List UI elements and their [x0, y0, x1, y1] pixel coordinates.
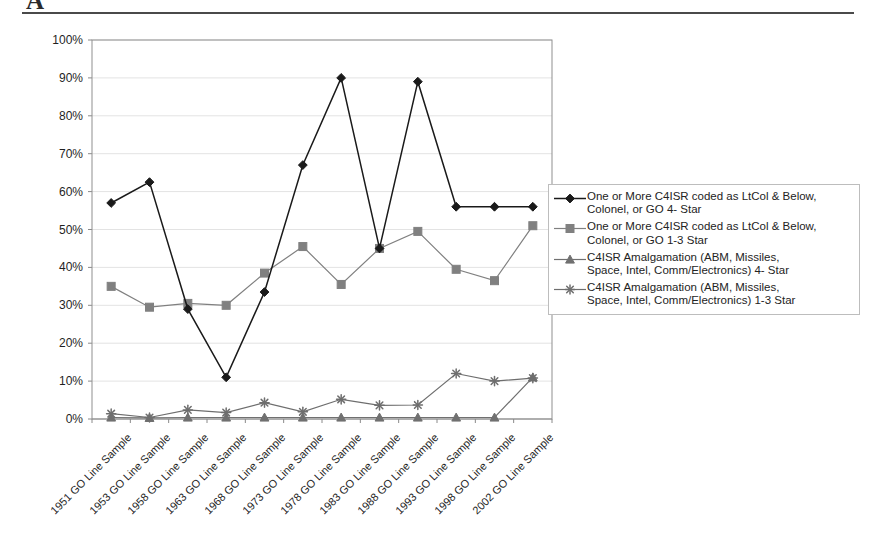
data-point-square	[222, 301, 230, 309]
data-point-diamond	[145, 178, 154, 187]
y-axis-tick-label: 40%	[59, 260, 83, 274]
chart-page: A 0%10%20%30%40%50%60%70%80%90%100% 1951…	[0, 0, 870, 552]
legend-label-3: C4ISR Amalgamation (ABM, Missiles, Space…	[587, 281, 795, 307]
legend-item-0[interactable]: One or More C4ISR coded as LtCol & Below…	[553, 190, 853, 216]
data-point-diamond	[490, 202, 499, 211]
data-point-square	[566, 225, 574, 233]
legend-label-0: One or More C4ISR coded as LtCol & Below…	[587, 190, 816, 216]
data-point-star	[452, 369, 461, 378]
data-point-square	[146, 303, 154, 311]
legend-item-3[interactable]: C4ISR Amalgamation (ABM, Missiles, Space…	[553, 281, 853, 307]
series-line	[111, 377, 533, 418]
legend-marker-square-icon	[553, 221, 587, 236]
data-point-star	[183, 405, 192, 414]
y-axis-tick-label: 50%	[59, 223, 83, 237]
legend-item-2[interactable]: C4ISR Amalgamation (ABM, Missiles, Space…	[553, 251, 853, 277]
y-axis-tick-label: 80%	[59, 109, 83, 123]
chart-container: 0%10%20%30%40%50%60%70%80%90%100% 1951 G…	[0, 24, 870, 552]
data-point-diamond	[222, 373, 231, 382]
data-point-diamond	[452, 202, 461, 211]
y-axis-tick-label: 20%	[59, 336, 83, 350]
data-point-square	[491, 277, 499, 285]
data-point-star	[107, 409, 116, 418]
data-point-square	[529, 222, 537, 230]
series-line	[111, 374, 533, 418]
data-point-diamond	[260, 288, 269, 297]
legend-marker-diamond-icon	[553, 191, 587, 206]
data-point-star	[490, 377, 499, 386]
data-point-star	[145, 413, 154, 422]
data-point-square	[337, 280, 345, 288]
legend-item-1[interactable]: One or More C4ISR coded as LtCol & Below…	[553, 220, 853, 246]
y-axis-tick-label: 70%	[59, 147, 83, 161]
y-axis-tick-label: 30%	[59, 298, 83, 312]
data-point-diamond	[107, 199, 116, 208]
legend-marker-star-icon	[553, 282, 587, 297]
y-axis-tick-label: 60%	[59, 185, 83, 199]
legend-marker-triangle-icon	[553, 252, 587, 267]
data-point-star	[565, 285, 574, 294]
data-point-diamond	[413, 77, 422, 86]
legend-label-1: One or More C4ISR coded as LtCol & Below…	[587, 220, 816, 246]
data-point-star	[222, 408, 231, 417]
data-point-diamond	[298, 161, 307, 170]
series-line	[111, 78, 533, 377]
header-divider	[22, 12, 854, 14]
data-point-square	[299, 243, 307, 251]
data-point-star	[260, 398, 269, 407]
data-point-diamond	[337, 74, 346, 83]
y-axis-tick-label: 0%	[66, 412, 84, 426]
data-point-square	[107, 282, 115, 290]
data-point-square	[261, 269, 269, 277]
chart-legend: One or More C4ISR coded as LtCol & Below…	[548, 184, 860, 315]
y-axis-tick-label: 100%	[52, 33, 83, 47]
y-axis-tick-label: 90%	[59, 71, 83, 85]
data-point-square	[414, 227, 422, 235]
y-axis-tick-label: 10%	[59, 374, 83, 388]
data-point-star	[298, 407, 307, 416]
legend-label-2: C4ISR Amalgamation (ABM, Missiles, Space…	[587, 251, 789, 277]
data-point-diamond	[566, 194, 575, 203]
data-point-star	[337, 395, 346, 404]
data-point-square	[452, 265, 460, 273]
data-point-diamond	[528, 202, 537, 211]
data-point-star	[528, 373, 537, 382]
data-point-star	[375, 401, 384, 410]
data-point-star	[413, 400, 422, 409]
